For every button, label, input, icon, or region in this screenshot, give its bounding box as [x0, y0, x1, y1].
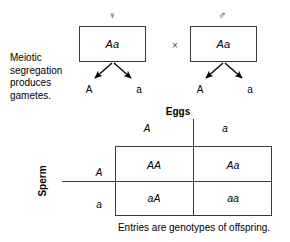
punnett-caption: Entries are genotypes of offspring.: [104, 222, 284, 233]
row-divider: [62, 181, 272, 182]
punnett-cell-aa: aa: [194, 193, 272, 204]
male-gamete-a: a: [243, 85, 257, 95]
punnett-cell-AA: AA: [115, 160, 193, 171]
sperm-allele-A: A: [92, 168, 106, 178]
female-gamete-a: a: [132, 85, 146, 95]
eggs-allele-a: a: [218, 124, 232, 134]
meiosis-note: Meiotic segregation produces gametes.: [10, 52, 76, 102]
punnett-square-diagram: ♀ ♂ Aa × Aa A a A a Meiotic segregation …: [0, 0, 290, 242]
punnett-cell-Aa: Aa: [194, 160, 272, 171]
punnett-cell-aA: aA: [115, 193, 193, 204]
eggs-axis-title: Eggs: [158, 107, 198, 117]
female-gamete-A: A: [82, 85, 96, 95]
sperm-allele-a: a: [92, 200, 106, 210]
male-gamete-A: A: [193, 85, 207, 95]
eggs-allele-A: A: [140, 124, 154, 134]
sperm-axis-title: Sperm: [38, 161, 48, 201]
